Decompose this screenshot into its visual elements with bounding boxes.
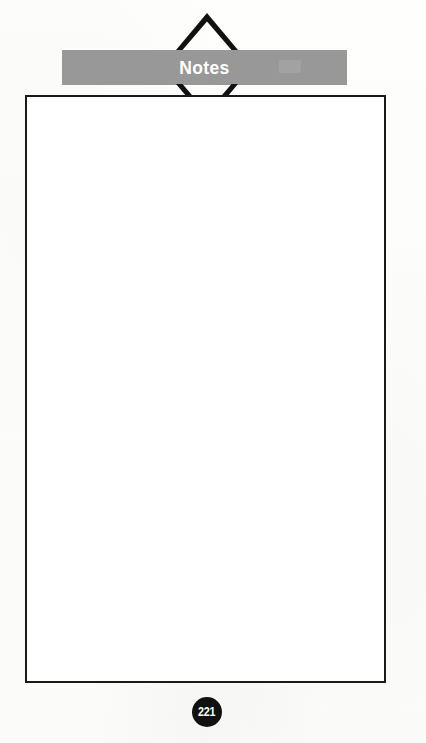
notes-title-label: Notes [179, 58, 229, 77]
page-number-label: 221 [198, 706, 215, 718]
chevron-up-icon [173, 10, 241, 52]
notes-page: Notes 221 [0, 0, 426, 743]
page-number-badge: 221 [192, 697, 222, 727]
notes-title-band: Notes [62, 50, 347, 85]
notes-writing-area[interactable] [25, 95, 386, 683]
